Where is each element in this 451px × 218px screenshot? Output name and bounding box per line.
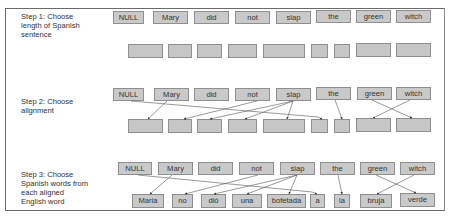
spanish-slot-8 — [356, 118, 391, 132]
english-word-mary: Mary — [154, 88, 189, 101]
spanish-word-bofetada: bofetada — [267, 194, 306, 208]
spanish-slot-2 — [168, 44, 192, 58]
english-word-witch: witch — [396, 10, 431, 23]
spanish-slot-7 — [334, 44, 350, 58]
spanish-word-bruja: bruja — [360, 194, 392, 208]
spanish-word-maria: Maria — [132, 194, 164, 208]
spanish-slot-3 — [197, 119, 222, 133]
spanish-slot-7 — [334, 119, 350, 133]
step-2-label: Step 2: Choose alignment — [21, 97, 73, 115]
spanish-slot-1 — [128, 119, 163, 133]
spanish-word-la: la — [334, 194, 350, 208]
spanish-slot-9 — [396, 118, 431, 132]
spanish-word-a: a — [310, 194, 325, 208]
spanish-slot-6 — [311, 119, 328, 133]
spanish-slot-9 — [396, 43, 431, 57]
english-word-green: green — [356, 10, 391, 23]
english-word-the: the — [320, 162, 355, 175]
english-word-witch: witch — [400, 162, 435, 175]
spanish-slot-5 — [263, 44, 305, 58]
spanish-slot-4 — [228, 119, 257, 133]
spanish-slot-5 — [263, 119, 305, 133]
english-word-not: not — [239, 162, 274, 175]
spanish-word-no: no — [172, 194, 193, 208]
spanish-slot-6 — [311, 44, 328, 58]
english-word-not: not — [235, 11, 270, 24]
spanish-slot-2 — [168, 119, 192, 133]
english-word-did: did — [198, 162, 233, 175]
english-word-null: NULL — [113, 11, 144, 24]
spanish-slot-4 — [228, 44, 257, 58]
spanish-slot-3 — [197, 44, 222, 58]
english-word-slap: slap — [276, 11, 311, 24]
spanish-slot-8 — [356, 43, 391, 57]
english-word-did: did — [194, 11, 229, 24]
step-1-label: Step 1: Choose length of Spanish sentenc… — [21, 12, 80, 39]
english-word-mary: Mary — [153, 11, 188, 24]
english-word-did: did — [194, 88, 229, 101]
spanish-slot-1 — [128, 44, 163, 58]
english-word-the: the — [316, 10, 351, 23]
english-word-mary: Mary — [158, 162, 193, 175]
english-word-null: NULL — [113, 88, 144, 101]
english-word-witch: witch — [396, 87, 431, 100]
spanish-word-verde: verde — [400, 193, 435, 207]
english-word-not: not — [235, 88, 270, 101]
english-word-green: green — [357, 87, 392, 100]
english-word-slap: slap — [276, 88, 311, 101]
english-word-green: green — [360, 162, 395, 175]
english-word-slap: slap — [280, 162, 315, 175]
spanish-word-dio: dió — [201, 194, 226, 208]
spanish-word-una: una — [232, 194, 262, 208]
english-word-the: the — [316, 87, 351, 100]
english-word-null: NULL — [118, 162, 152, 175]
step-3-label: Step 3: Choose Spanish words from each a… — [21, 170, 88, 206]
